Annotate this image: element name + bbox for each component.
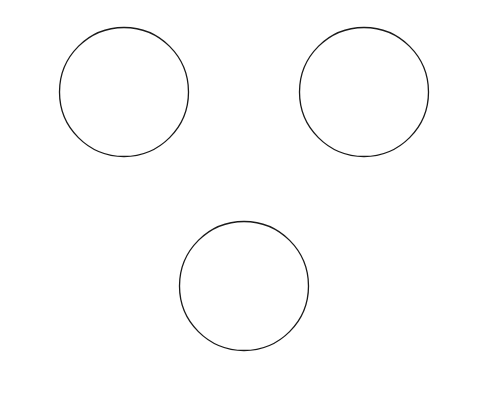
compass-inverted [300,28,429,157]
compass-right-side-up-flipped [180,222,309,351]
field-circle [60,28,189,157]
compass-right-side-up [60,28,189,157]
orientation-diagrams [0,0,489,409]
field-circle [180,222,309,351]
field-circle [300,28,429,157]
